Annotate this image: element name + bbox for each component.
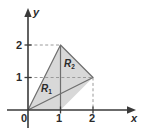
y-axis-label: y <box>33 7 39 18</box>
x-tick-label-1: 1 <box>56 113 62 124</box>
region-label-r1-subscript: 1 <box>48 88 52 95</box>
region-label-r2: R2 <box>64 59 75 69</box>
region-label-r1: R1 <box>41 84 52 94</box>
region-label-r2-subscript: 2 <box>71 63 75 70</box>
y-tick-label-2: 2 <box>16 40 22 51</box>
region-r2-shape <box>61 45 94 110</box>
y-tick-label-1: 1 <box>16 72 22 83</box>
x-tick-label-2: 2 <box>89 113 95 124</box>
origin-tick-label: 0 <box>21 113 27 124</box>
math-figure: 0 1 2 1 2 x y R1 R2 <box>0 0 146 136</box>
x-axis-label: x <box>131 113 137 124</box>
y-axis-arrow <box>24 8 31 17</box>
